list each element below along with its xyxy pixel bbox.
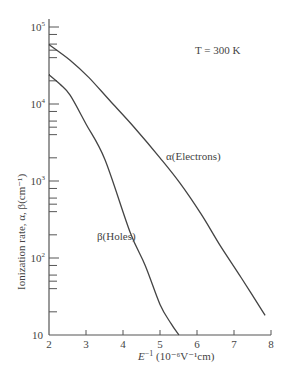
axes: 234567810102103104105	[31, 19, 275, 350]
y-tick-label: 105	[31, 20, 46, 33]
y-tick-label: 10	[32, 329, 44, 341]
alpha-electrons-curve	[49, 45, 265, 316]
beta-curve-label: β(Holes)	[97, 230, 136, 243]
alpha-curve-label: α(Electrons)	[166, 150, 221, 163]
y-tick-label: 102	[31, 251, 46, 264]
x-tick-label: 8	[268, 338, 274, 350]
x-tick-label: 7	[231, 338, 237, 350]
curves	[49, 45, 265, 335]
x-tick-label: 6	[194, 338, 200, 350]
ionization-rate-chart: 234567810102103104105 T = 300 K α(Electr…	[0, 0, 288, 378]
x-tick-label: 3	[83, 338, 89, 350]
y-tick-label: 103	[31, 174, 46, 187]
x-tick-label: 5	[157, 338, 163, 350]
x-axis-label: E−1 (10⁻⁶V⁻¹cm)	[137, 349, 215, 363]
x-tick-label: 4	[120, 338, 126, 350]
y-axis-label: Ionization rate, α, β(cm⁻¹)	[15, 174, 28, 290]
beta-holes-curve	[49, 75, 179, 335]
x-tick-label: 2	[46, 338, 52, 350]
plot-area: 234567810102103104105 T = 300 K α(Electr…	[0, 0, 288, 378]
temperature-annotation: T = 300 K	[195, 44, 240, 56]
y-tick-label: 104	[31, 97, 46, 110]
